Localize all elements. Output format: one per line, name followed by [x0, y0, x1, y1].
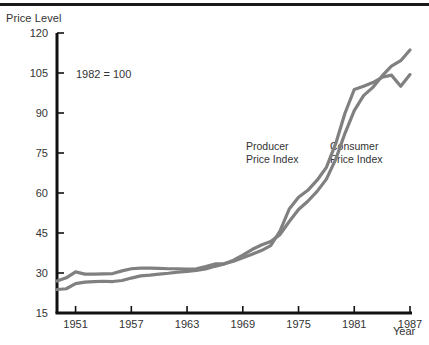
series-line-consumer-price-index: [57, 50, 410, 289]
axis-lines: [56, 33, 413, 313]
chart-figure: Price Level Year 1982 = 100 Producer Pri…: [0, 0, 429, 345]
series-lines: [57, 50, 410, 289]
plot-area: [0, 0, 429, 345]
